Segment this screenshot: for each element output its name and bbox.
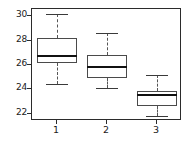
y-tick-label: 30 [3, 10, 27, 19]
x-tick-label: 1 [46, 125, 66, 135]
y-tick-mark [27, 64, 31, 65]
y-axis: 2224262830 [0, 0, 27, 144]
x-tick-mark [106, 120, 107, 124]
median-line [137, 94, 177, 96]
y-tick-mark [27, 88, 31, 89]
y-tick-mark [27, 40, 31, 41]
boxplot-box-group [32, 9, 180, 119]
y-tick-label: 22 [3, 108, 27, 117]
y-tick-mark [27, 15, 31, 16]
whisker-upper [157, 75, 158, 91]
cap-lower [146, 116, 168, 117]
box-iqr [137, 91, 177, 107]
y-tick-label: 28 [3, 35, 27, 44]
x-tick-mark [156, 120, 157, 124]
y-tick-mark [27, 113, 31, 114]
whisker-lower [157, 106, 158, 116]
boxplot-chart-figure: 2224262830 123 [0, 0, 190, 144]
plot-area [31, 8, 181, 120]
cap-upper [146, 75, 168, 76]
y-tick-label: 26 [3, 59, 27, 68]
x-tick-mark [56, 120, 57, 124]
x-tick-label: 2 [96, 125, 116, 135]
x-tick-label: 3 [146, 125, 166, 135]
y-tick-label: 24 [3, 83, 27, 92]
